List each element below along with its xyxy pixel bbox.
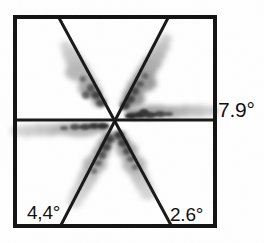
angle-label-bottom-left: 4,4° bbox=[27, 203, 60, 222]
angle-label-bottom-right: 2.6° bbox=[170, 205, 203, 224]
angle-label-right: 7.9° bbox=[218, 99, 255, 120]
figure-container: 7.9° 4,4° 2.6° bbox=[0, 0, 264, 243]
